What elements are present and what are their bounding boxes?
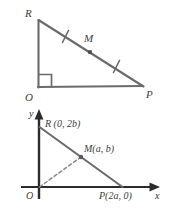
bottom-diagram-group: y x O R (0, 2b) M(a, b) P(2a, 0) [21, 108, 160, 202]
label-origin-bottom: O [26, 190, 33, 201]
midpoint-dot-M [88, 50, 92, 54]
top-diagram-group: R O M P [24, 7, 153, 103]
label-y-axis: y [28, 108, 34, 119]
label-R-bottom: R (0, 2b) [44, 118, 81, 130]
label-P-top: P [145, 88, 153, 100]
label-M-bottom: M(a, b) [83, 143, 115, 155]
right-angle-marker [39, 75, 52, 88]
geometry-figure-panel: R O M P y x O R (0, 2b) M(a, b) [0, 0, 171, 221]
label-M-top: M [83, 32, 94, 44]
label-x-axis: x [154, 190, 160, 201]
median-OM-dashed [40, 157, 82, 187]
figure-canvas: R O M P y x O R (0, 2b) M(a, b) [0, 0, 171, 221]
segment-OP [38, 86, 143, 87]
midpoint-dot-M-bottom [79, 155, 83, 159]
y-axis-arrowhead [35, 109, 44, 120]
label-R-top: R [24, 7, 32, 19]
label-O-top: O [25, 91, 33, 103]
label-P-bottom: P(2a, 0) [98, 190, 132, 202]
